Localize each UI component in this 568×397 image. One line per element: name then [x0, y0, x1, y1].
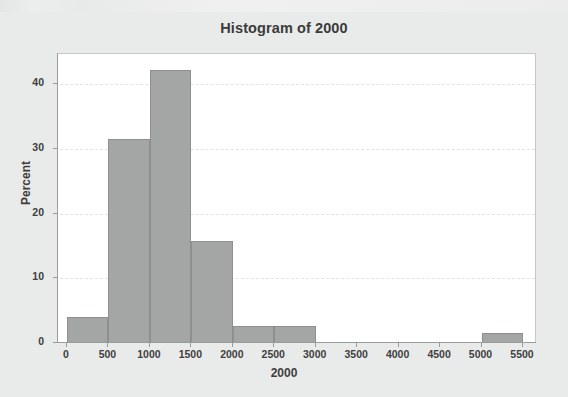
x-tick-mark — [273, 343, 274, 347]
x-tick-mark — [232, 343, 233, 347]
histogram-bar — [108, 139, 149, 343]
y-tick-mark — [53, 213, 57, 214]
chart-title: Histogram of 2000 — [0, 20, 568, 36]
x-tick-mark — [356, 343, 357, 347]
histogram-bar — [150, 70, 191, 343]
x-tick-label: 0 — [44, 348, 88, 360]
x-tick-mark — [522, 343, 523, 347]
plot-frame — [57, 53, 536, 343]
x-tick-mark — [190, 343, 191, 347]
x-tick-label: 3000 — [293, 348, 337, 360]
x-tick-label: 2000 — [210, 348, 254, 360]
x-tick-mark — [481, 343, 482, 347]
x-tick-mark — [315, 343, 316, 347]
x-tick-mark — [398, 343, 399, 347]
x-tick-mark — [439, 343, 440, 347]
x-tick-label: 1000 — [127, 348, 171, 360]
histogram-chart: Histogram of 2000 010203040 050010001500… — [0, 0, 568, 397]
y-tick-label: 10 — [14, 270, 44, 282]
gridline — [60, 84, 535, 85]
x-axis-title: 2000 — [0, 366, 568, 380]
histogram-bar — [191, 241, 232, 343]
x-tick-mark — [149, 343, 150, 347]
histogram-bar — [67, 317, 108, 343]
plot-area — [58, 54, 537, 344]
x-tick-label: 4500 — [417, 348, 461, 360]
x-tick-mark — [107, 343, 108, 347]
x-tick-label: 1500 — [168, 348, 212, 360]
y-tick-mark — [53, 148, 57, 149]
x-tick-label: 2500 — [251, 348, 295, 360]
x-tick-label: 5500 — [500, 348, 544, 360]
x-tick-label: 5000 — [459, 348, 503, 360]
x-tick-label: 4000 — [376, 348, 420, 360]
y-tick-label: 0 — [14, 335, 44, 347]
y-tick-mark — [53, 342, 57, 343]
x-tick-label: 3500 — [334, 348, 378, 360]
histogram-bar — [233, 326, 274, 343]
x-tick-label: 500 — [85, 348, 129, 360]
y-axis-line — [57, 53, 58, 343]
y-tick-label: 40 — [14, 76, 44, 88]
y-tick-mark — [53, 277, 57, 278]
y-tick-mark — [53, 83, 57, 84]
histogram-bar — [274, 326, 315, 343]
x-axis-line — [57, 342, 536, 343]
x-tick-mark — [66, 343, 67, 347]
y-axis-title: Percent — [19, 133, 33, 233]
